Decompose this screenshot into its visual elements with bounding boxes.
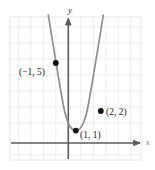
data-point-2-2: [98, 108, 104, 114]
point-label-neg1-5: (−1, 5): [19, 68, 45, 78]
parabola-curve: [48, 15, 103, 131]
y-axis-label: y: [68, 6, 72, 15]
plot-frame: [10, 17, 141, 160]
x-axis-arrowhead: [134, 140, 141, 145]
data-point-neg1-5: [53, 60, 59, 66]
x-axis-label: x: [146, 139, 150, 147]
graph-figure: y x (−1, 5) (2, 2) (1, 1): [0, 0, 155, 170]
point-label-2-2: (2, 2): [106, 108, 127, 118]
data-point-1-1: [73, 128, 79, 134]
coordinate-plane: [0, 0, 155, 170]
data-points: [53, 60, 104, 133]
y-axis-arrowhead: [66, 18, 71, 25]
point-label-1-1: (1, 1): [80, 131, 101, 141]
grid-lines: [10, 17, 141, 160]
